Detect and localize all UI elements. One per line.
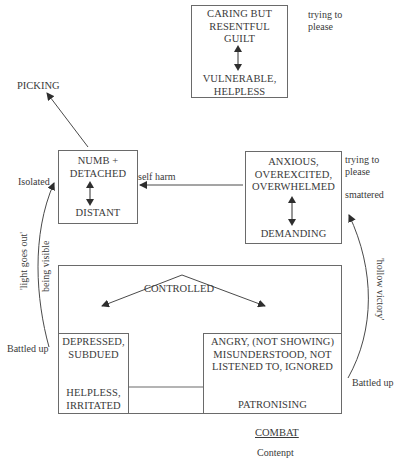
numb-line-2: DETACHED bbox=[59, 168, 137, 181]
numb-right-note: self harm bbox=[138, 171, 176, 183]
anxious-line-4: DEMANDING bbox=[246, 228, 341, 241]
node-controlled: CONTROLLED bbox=[144, 283, 214, 295]
depressed-line-3: HELPLESS, bbox=[59, 387, 128, 400]
anxious-side-note: trying to please bbox=[345, 154, 379, 178]
numb-line-1: NUMB + bbox=[59, 155, 137, 168]
caring-line-5: HELPLESS bbox=[192, 86, 287, 99]
caring-line-2: RESENTFUL bbox=[192, 21, 287, 34]
caring-side-note-line-2: please bbox=[308, 21, 342, 33]
node-caring: CARING BUT RESENTFUL GUILT VULNERABLE, H… bbox=[191, 5, 288, 98]
angry-line-1: ANGRY, (NOT SHOWING) bbox=[204, 336, 341, 349]
depressed-line-1: DEPRESSED, bbox=[59, 336, 128, 349]
anxious-side-note-line-2: please bbox=[345, 166, 379, 178]
node-picking: PICKING bbox=[17, 80, 60, 92]
left-curve-label-inner: being visible bbox=[40, 241, 52, 292]
anxious-side-note-line-1: trying to bbox=[345, 154, 379, 166]
depressed-line-4: IRRITATED bbox=[59, 400, 128, 413]
anxious-line-3: OVERWHELMED bbox=[246, 181, 341, 194]
anxious-line-2: OVEREXCITED, bbox=[246, 169, 341, 182]
node-numb: NUMB + DETACHED DISTANT bbox=[58, 150, 138, 224]
caring-line-3: GUILT bbox=[192, 33, 287, 46]
caring-side-note-line-1: trying to bbox=[308, 9, 342, 21]
angry-line-4: PATRONISING bbox=[204, 399, 341, 412]
angry-line-2: MISUNDERSTOOD, NOT bbox=[204, 349, 341, 362]
right-battled-up: Battled up bbox=[352, 377, 393, 389]
node-angry: ANGRY, (NOT SHOWING) MISUNDERSTOOD, NOT … bbox=[203, 333, 342, 414]
depressed-line-2: SUBDUED bbox=[59, 349, 128, 362]
right-curve-label: 'hollow victory' bbox=[374, 258, 386, 320]
node-anxious: ANXIOUS, OVEREXCITED, OVERWHELMED DEMAND… bbox=[245, 151, 342, 244]
curve-arrow-right bbox=[348, 215, 368, 378]
anxious-side-note-2: smattered bbox=[345, 189, 384, 201]
left-battled-up: Battled up bbox=[7, 343, 48, 355]
numb-left-note: Isolated bbox=[18, 176, 50, 188]
caring-side-note: trying to please bbox=[308, 9, 342, 33]
numb-line-3: DISTANT bbox=[59, 207, 137, 220]
caring-line-4: VULNERABLE, bbox=[192, 73, 287, 86]
arrow-numb-to-picking bbox=[47, 93, 88, 147]
left-curve-label-outer: 'light goes out' bbox=[18, 232, 30, 290]
angry-line-3: LISTENED TO, IGNORED bbox=[204, 361, 341, 374]
combat-label: COMBAT bbox=[255, 427, 299, 439]
node-depressed: DEPRESSED, SUBDUED HELPLESS, IRRITATED bbox=[58, 333, 129, 414]
anxious-line-1: ANXIOUS, bbox=[246, 156, 341, 169]
contempt-label: Contenpt bbox=[257, 447, 294, 459]
caring-line-1: CARING BUT bbox=[192, 8, 287, 21]
